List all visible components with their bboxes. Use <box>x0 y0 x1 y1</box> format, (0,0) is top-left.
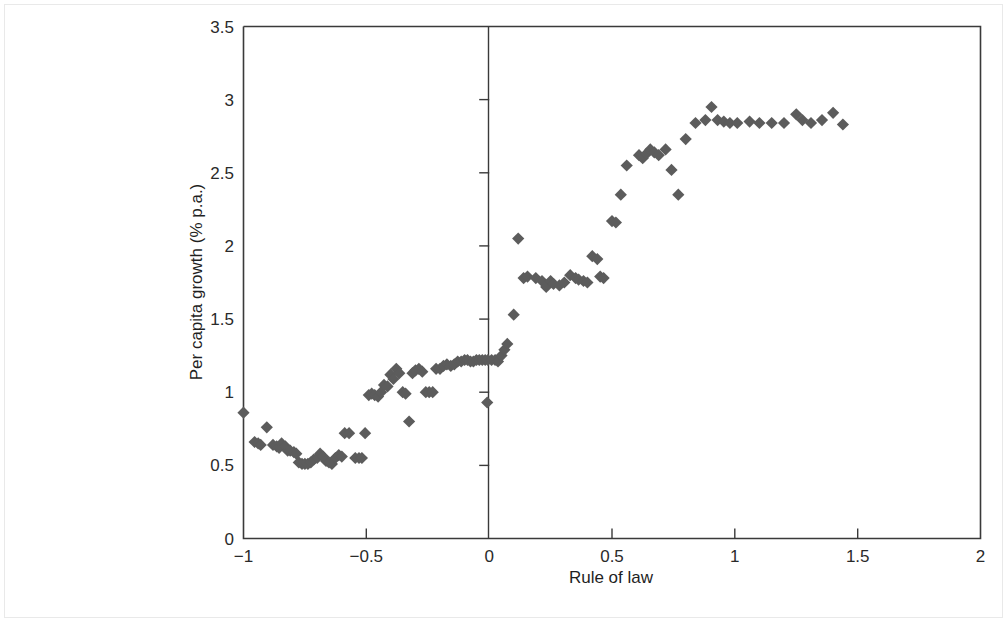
y-tick-label: 1 <box>225 383 234 402</box>
data-point <box>731 117 743 129</box>
data-point <box>359 427 371 439</box>
x-axis-title: Rule of law <box>569 568 654 587</box>
x-tick-label: 1.5 <box>846 547 870 566</box>
y-tick-label: 0 <box>225 530 234 549</box>
data-point <box>837 118 849 130</box>
scatter-chart: 00.511.522.533.5 −1−0.500.511.52 Rule of… <box>0 0 1007 622</box>
x-tick-labels: −1−0.500.511.52 <box>234 547 985 566</box>
x-tick-label: −1 <box>234 547 253 566</box>
data-points-layer <box>237 101 849 470</box>
data-point <box>621 159 633 171</box>
data-point <box>512 233 524 245</box>
x-tick-label: 1 <box>730 547 739 566</box>
data-point <box>816 114 828 126</box>
y-tick-label: 0.5 <box>210 456 234 475</box>
y-tick-marks <box>479 100 489 466</box>
plot-svg: 00.511.522.533.5 −1−0.500.511.52 Rule of… <box>0 0 1007 622</box>
data-point <box>705 101 717 113</box>
data-point <box>680 133 692 145</box>
data-point <box>672 189 684 201</box>
data-point <box>508 309 520 321</box>
y-tick-label: 2 <box>225 237 234 256</box>
data-point <box>744 116 756 128</box>
data-point <box>753 117 765 129</box>
data-point <box>778 117 790 129</box>
y-tick-label: 3 <box>225 91 234 110</box>
data-point <box>699 114 711 126</box>
y-tick-label: 3.5 <box>210 18 234 37</box>
data-point <box>481 396 493 408</box>
y-axis-title: Per capita growth (% p.a.) <box>187 184 206 381</box>
data-point <box>827 107 839 119</box>
data-point <box>665 164 677 176</box>
x-tick-label: −0.5 <box>350 547 384 566</box>
y-tick-labels: 00.511.522.533.5 <box>210 18 234 549</box>
y-tick-label: 1.5 <box>210 310 234 329</box>
data-point <box>766 117 778 129</box>
chart-page: 00.511.522.533.5 −1−0.500.511.52 Rule of… <box>0 0 1007 622</box>
data-point <box>261 421 273 433</box>
x-tick-label: 0.5 <box>600 547 624 566</box>
x-tick-label: 0 <box>484 547 493 566</box>
data-point <box>689 117 701 129</box>
data-point <box>403 415 415 427</box>
x-tick-label: 2 <box>976 547 985 566</box>
y-tick-label: 2.5 <box>210 164 234 183</box>
x-tick-marks <box>366 529 857 539</box>
data-point <box>615 189 627 201</box>
data-point <box>237 407 249 419</box>
